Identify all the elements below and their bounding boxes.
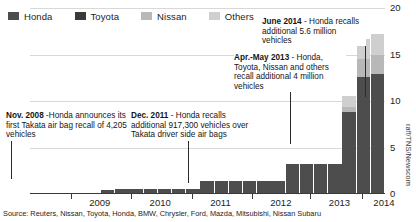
legend-label-others: Others [225,11,254,22]
bar-segment-others [371,34,384,55]
bar-segment-nissan [371,55,384,74]
annotation-june-2014: June 2014 - Honda recalls additional 5.6… [262,17,366,46]
leader-line-apr-may-2013 [290,92,291,144]
legend-item-toyota: Toyota [75,11,120,22]
bar-stack-2013-Q2 [286,164,299,194]
leader-line-dec-2011 [188,141,189,183]
annotation-apr-may-2013: Apr.-May 2013 - Honda, Toyota, Nissan an… [234,53,346,91]
bar-segment-nissan [342,107,355,113]
credit-line: raff/TNS/Newscom [403,122,416,222]
takata-recall-chart: Honda Toyota Nissan Others 05101520 2009… [0,0,416,222]
bar-stack-2014-Q3 [357,39,370,194]
legend-swatch-honda [8,12,19,20]
annotation-dec-2011: Dec. 2011 - Honda recalls additional 917… [131,111,252,140]
bar-segment-honda [314,164,327,194]
x-tick-label-2009: 2009 [89,197,110,208]
bar-stack-2014-Q1 [328,164,341,194]
legend-label-honda: Honda [24,11,53,22]
x-tick-mark-2014 [362,194,363,199]
x-tick-mark-2010 [131,194,132,199]
annotation-nov-2008: Nov. 2008 -Honda announces its first Tak… [6,111,130,140]
chart-legend: Honda Toyota Nissan Others [8,9,276,23]
y-tick-label-15: 15 [390,50,401,60]
x-axis: 200920102011201220132014 [30,194,385,208]
annotation-apr-may-2013-date: Apr.-May 2013 [234,53,289,62]
x-tick-mark-2012 [252,194,253,199]
bar-segment-others [342,96,355,106]
bar-segment-honda [371,74,384,194]
x-tick-label-2014: 2014 [373,197,394,208]
credit-text: raff/TNS/Newscom [404,124,413,186]
legend-item-others: Others [209,11,254,22]
legend-swatch-nissan [141,12,152,20]
annotation-nov-2008-date: Nov. 2008 [6,111,44,120]
bar-segment-honda [342,112,355,194]
bar-segment-honda [357,77,370,194]
bar-stack-2013-Q3 [300,164,313,194]
bar-segment-honda [286,164,299,194]
source-note: Source: Reuters, Nissan, Toyota, Honda, … [3,209,321,218]
bar-segment-nissan [357,59,370,77]
legend-item-nissan: Nissan [141,11,187,22]
x-tick-label-2011: 2011 [210,197,230,208]
y-tick-label-5: 5 [390,143,395,153]
annotation-dec-2011-date: Dec. 2011 [131,111,168,120]
legend-item-honda: Honda [8,11,53,22]
leader-line-nov-2008 [11,141,12,179]
legend-swatch-others [209,12,220,20]
bar-stack-2013-Q4 [314,164,327,194]
legend-swatch-toyota [75,12,86,20]
bar-segment-honda [300,164,313,194]
x-tick-label-2012: 2012 [270,197,291,208]
x-tick-label-2013: 2013 [329,197,350,208]
bar-segment-honda [328,164,341,194]
x-tick-mark-2011 [192,194,193,199]
x-tick-mark-2009 [71,194,72,199]
y-tick-label-20: 20 [390,3,401,13]
bar-stack-2014-Q4 [371,34,384,194]
legend-label-toyota: Toyota [91,11,120,22]
x-tick-label-2010: 2010 [150,197,171,208]
x-tick-mark-2013 [310,194,311,199]
bar-stack-2014-Q2 [342,96,355,194]
y-tick-label-10: 10 [390,96,401,106]
legend-label-nissan: Nissan [157,11,187,22]
